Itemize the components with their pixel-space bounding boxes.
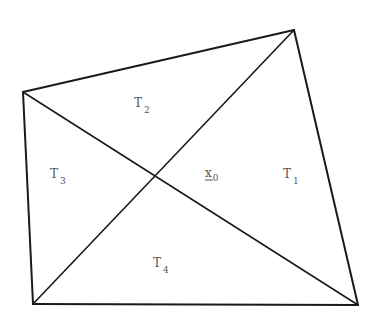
label-t3-base: T [50,167,58,181]
label-t1: T1 [283,167,299,186]
label-t1-base: T [283,167,291,181]
outer-quadrilateral [23,30,358,305]
edge-bottom [33,304,358,305]
label-t3: T3 [50,167,66,186]
edge-left-top-right [23,30,294,92]
diagonal-left-to-bottom-right [23,92,358,305]
label-x0-base: x [205,166,212,180]
label-t1-sub: 1 [293,176,299,186]
label-t4-base: T [153,256,161,270]
label-t4: T4 [153,256,169,275]
edge-top-right-bottom-right [294,30,358,305]
label-t4-sub: 4 [163,265,169,275]
diagonal-bottom-left-to-top-right [33,30,294,304]
label-t3-sub: 3 [60,176,66,186]
label-t2-sub: 2 [144,105,150,115]
label-t2-base: T [134,96,142,110]
edge-left [23,92,33,304]
label-t2: T2 [134,96,150,115]
diagram-canvas: T1 T2 T3 T4 x0 [0,0,379,317]
label-x0-sub: 0 [213,173,219,183]
diagonals [23,30,358,305]
